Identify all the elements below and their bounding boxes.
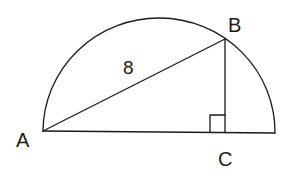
diameter-line (43, 131, 275, 133)
segment-ab (43, 39, 225, 131)
label-point-b: B (228, 14, 241, 36)
semicircle-diagram: A B C 8 (0, 0, 290, 179)
label-point-a: A (16, 129, 30, 151)
label-length-ab: 8 (123, 57, 134, 78)
label-point-c: C (218, 148, 232, 170)
right-angle-marker (210, 115, 225, 132)
